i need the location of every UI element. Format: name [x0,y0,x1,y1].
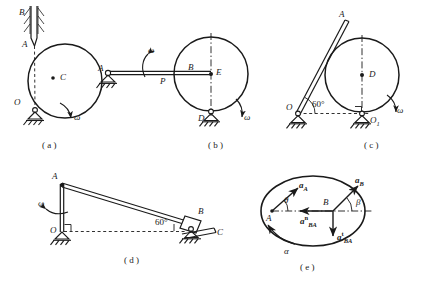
panel-caption-d: ( d ) [124,255,139,265]
label-omega-disc-b: ω [244,113,250,122]
rod-oa-d [60,184,63,232]
panel-d-group [46,183,216,245]
label-point-a-b: A [98,64,104,73]
panel-caption-e: ( e ) [300,262,315,272]
label-point-c-a: C [60,73,66,82]
panel-b-group [97,33,249,126]
label-point-b-a: B [19,8,25,17]
label-angle-60-d: 60° [155,218,168,227]
label-point-o-d: O [50,226,57,235]
guide-hatching-a [24,6,44,34]
panel-caption-c: ( c ) [364,140,379,150]
label-point-a-e: A [266,214,272,223]
panel-caption-b: ( b ) [208,140,223,150]
label-omega-d: ω [38,199,44,208]
label-point-c-d: C [217,228,223,237]
rod-ab-d [62,183,190,226]
label-point-a-a: A [22,40,28,49]
label-point-o1-index: 1 [377,120,380,127]
label-accel-ba-t-sub: BA [344,237,353,244]
label-alpha-e: α [284,247,289,256]
label-accel-ba-tangential-e: atBA [337,231,352,244]
label-omega-a: ω [74,113,80,122]
label-omega-c: ω [397,106,403,115]
panel-a-group [24,6,103,125]
label-accel-a-index: A [304,185,308,192]
vector-accel-b [333,186,358,211]
label-point-o1-c: O1 [370,116,380,127]
omega-arrow-disc-b [236,99,242,117]
alpha-arrow-e [268,225,295,244]
omega-arrow-rod-b [143,54,148,77]
label-beta-e: β [356,198,360,207]
label-point-e-b: E [216,68,222,77]
rod-ab-a [31,6,37,46]
omega-arrow-a [60,103,71,118]
label-accel-a-e: aA [299,181,308,192]
label-omega-rod-b: ω [148,46,154,55]
mechanics-figure-sheet: B A C O ω ( a ) A ω P B E D ω ( b ) A D … [0,0,425,286]
label-point-d-b: D [198,114,205,123]
label-point-o-a: O [14,98,21,107]
centre-d-dot [360,73,364,77]
joint-a-d [60,183,64,187]
label-accel-ba-normal-e: anBA [300,215,317,228]
right-angle-mark-d [65,225,72,232]
panel-c-group [287,20,400,128]
centre-c-dot [51,76,55,80]
centre-e-dot [209,72,213,76]
label-accel-b-e: aB [355,176,364,187]
label-point-b-d: B [198,207,204,216]
label-point-d-c: D [369,70,376,79]
pin-support-o-a [24,108,45,125]
rod-ab-b [110,71,211,74]
pin-support-a-b [97,70,118,88]
label-point-a-d: A [52,172,58,181]
label-theta-e: θ [284,196,288,205]
label-point-p-b: P [160,77,166,86]
label-accel-ba-n-sub: BA [308,221,317,228]
omega-arrow-d [46,209,68,214]
label-angle-60-c: 60° [312,100,325,109]
label-point-b-e: B [323,198,329,207]
label-point-o-c: O [286,103,293,112]
panel-caption-a: ( a ) [42,140,57,150]
beta-arc-e [347,198,352,211]
label-point-b-b: B [188,63,194,72]
chord-ao-a [35,46,36,110]
label-accel-b-index: B [360,180,364,187]
label-point-a-c: A [339,10,345,19]
